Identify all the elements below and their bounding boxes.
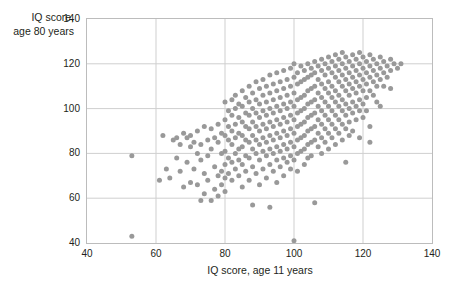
data-point	[129, 234, 134, 239]
data-point	[285, 133, 290, 138]
data-point	[226, 155, 231, 160]
data-point	[174, 155, 179, 160]
data-point	[302, 146, 307, 151]
data-point	[292, 104, 297, 109]
data-point	[374, 84, 379, 89]
data-point	[336, 104, 341, 109]
data-point	[312, 97, 317, 102]
data-point	[267, 106, 272, 111]
data-point	[240, 88, 245, 93]
data-point	[343, 55, 348, 60]
data-point	[302, 68, 307, 73]
data-point	[285, 120, 290, 125]
data-point	[340, 108, 345, 113]
data-point	[336, 117, 341, 122]
data-point	[398, 61, 403, 66]
data-point	[264, 99, 269, 104]
data-point	[243, 95, 248, 100]
data-point	[316, 117, 321, 122]
data-point	[302, 106, 307, 111]
data-point	[250, 106, 255, 111]
data-point	[312, 124, 317, 129]
data-point	[278, 149, 283, 154]
data-point	[388, 86, 393, 91]
data-point	[278, 122, 283, 127]
data-point	[260, 77, 265, 82]
data-point	[285, 160, 290, 165]
data-point	[271, 124, 276, 129]
x-axis-tick-label: 140	[412, 248, 452, 259]
data-point	[374, 73, 379, 78]
data-point	[319, 151, 324, 156]
data-point	[298, 64, 303, 69]
data-point	[285, 106, 290, 111]
data-point	[278, 79, 283, 84]
data-point	[271, 81, 276, 86]
data-point	[354, 104, 359, 109]
data-point	[381, 59, 386, 64]
data-point	[357, 73, 362, 78]
data-point	[340, 122, 345, 127]
data-point	[309, 153, 314, 158]
data-point	[274, 70, 279, 75]
data-point	[247, 178, 252, 183]
data-point	[326, 146, 331, 151]
data-point	[229, 129, 234, 134]
data-point	[326, 79, 331, 84]
data-point	[371, 57, 376, 62]
data-point	[226, 124, 231, 129]
data-point	[257, 115, 262, 120]
x-axis-tick-label: 40	[67, 248, 107, 259]
data-point	[233, 167, 238, 172]
data-point	[364, 59, 369, 64]
data-point	[229, 97, 234, 102]
data-point	[361, 77, 366, 82]
data-point	[312, 70, 317, 75]
data-point	[198, 158, 203, 163]
data-point	[274, 180, 279, 185]
data-point	[333, 88, 338, 93]
data-point	[174, 135, 179, 140]
data-point	[250, 164, 255, 169]
data-point	[240, 133, 245, 138]
data-point	[388, 68, 393, 73]
data-point	[323, 73, 328, 78]
data-point	[274, 158, 279, 163]
data-point	[319, 108, 324, 113]
data-point	[357, 135, 362, 140]
data-point	[292, 61, 297, 66]
data-point	[367, 124, 372, 129]
data-point	[240, 120, 245, 125]
data-point	[260, 149, 265, 154]
data-point	[278, 164, 283, 169]
x-axis-tick-label: 60	[136, 248, 176, 259]
x-axis-tick-label: 120	[343, 248, 383, 259]
data-point	[278, 135, 283, 140]
data-point	[347, 120, 352, 125]
data-point	[340, 137, 345, 142]
data-point	[354, 57, 359, 62]
data-point	[240, 162, 245, 167]
data-point	[374, 61, 379, 66]
data-point	[350, 99, 355, 104]
data-point	[267, 120, 272, 125]
data-point	[350, 75, 355, 80]
data-point	[340, 97, 345, 102]
data-point	[247, 155, 252, 160]
data-point	[316, 144, 321, 149]
data-point	[260, 167, 265, 172]
data-point	[267, 162, 272, 167]
data-point	[333, 64, 338, 69]
data-point	[219, 182, 224, 187]
y-axis-tick-label: 80	[44, 147, 80, 158]
data-point	[167, 176, 172, 181]
data-point	[350, 86, 355, 91]
data-point	[264, 176, 269, 181]
data-point	[319, 68, 324, 73]
data-point	[343, 66, 348, 71]
data-point	[223, 162, 228, 167]
data-point	[381, 84, 386, 89]
data-point	[354, 68, 359, 73]
data-point	[336, 93, 341, 98]
data-point	[305, 61, 310, 66]
